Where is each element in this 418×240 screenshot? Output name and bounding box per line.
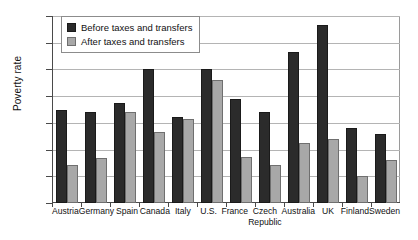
bar [201, 69, 212, 203]
legend-item-before: Before taxes and transfers [67, 20, 192, 34]
bar [357, 176, 368, 203]
bar [85, 112, 96, 203]
x-axis-label: Spain [114, 206, 140, 227]
x-axis-label: Italy [170, 206, 196, 227]
bar [375, 134, 386, 203]
bar-group [197, 16, 226, 203]
bar-group [226, 16, 255, 203]
x-axis-label: Canada [140, 206, 170, 227]
bar [154, 132, 165, 203]
bar [270, 165, 281, 203]
bar [288, 52, 299, 203]
bar-group [255, 16, 284, 203]
bar [125, 112, 136, 203]
bar [241, 157, 252, 203]
bar [346, 128, 357, 203]
bar [56, 110, 67, 204]
legend-swatch-after-icon [67, 37, 76, 46]
bar [386, 160, 397, 203]
bar [317, 25, 328, 203]
x-axis-label: Germany [79, 206, 114, 227]
x-axis-label: UK [315, 206, 341, 227]
bar [114, 103, 125, 203]
x-axis-label: Austria [52, 206, 79, 227]
bar [67, 165, 78, 203]
bar [172, 117, 183, 203]
y-axis-title: Poverty rate [12, 34, 23, 134]
bar-group [284, 16, 313, 203]
bar [143, 69, 154, 203]
x-axis-label: Sweden [369, 206, 400, 227]
x-axis-label: Australia [282, 206, 315, 227]
x-axis-label: France [221, 206, 248, 227]
bar-group [371, 16, 400, 203]
bar [259, 112, 270, 203]
x-axis-labels: AustriaGermanySpainCanadaItalyU.S.France… [52, 206, 400, 227]
bar [96, 158, 107, 203]
x-axis-label: U.S. [196, 206, 222, 227]
bar-group [342, 16, 371, 203]
chart-legend: Before taxes and transfers After taxes a… [61, 16, 200, 53]
legend-swatch-before-icon [67, 23, 76, 32]
x-axis-label: Finland [341, 206, 369, 227]
legend-label-after: After taxes and transfers [81, 36, 185, 47]
bar-group [313, 16, 342, 203]
bar [299, 143, 310, 203]
legend-label-before: Before taxes and transfers [81, 22, 192, 33]
poverty-rate-bar-chart: Poverty rate 35%30%25%20%15%10%5%0% Aust… [0, 0, 418, 240]
legend-item-after: After taxes and transfers [67, 34, 192, 48]
bar [183, 119, 194, 203]
bar [230, 99, 241, 203]
bar [328, 139, 339, 203]
x-axis-label: Czech Republic [248, 206, 281, 227]
bar [212, 80, 223, 203]
